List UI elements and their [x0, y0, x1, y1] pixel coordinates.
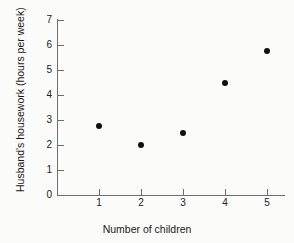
y-tick-mark [58, 195, 64, 196]
x-tick-label-3: 3 [175, 198, 191, 208]
y-tick-mark [58, 145, 64, 146]
data-point [138, 142, 144, 148]
y-tick-label-0: 0 [38, 190, 52, 200]
x-tick-label-5: 5 [259, 198, 275, 208]
data-point [180, 130, 186, 136]
x-axis-title: Number of children [0, 223, 294, 235]
data-point [96, 123, 102, 129]
data-point [222, 80, 228, 86]
x-tick-mark [183, 189, 184, 195]
y-tick-mark [58, 45, 64, 46]
x-tick-mark [99, 189, 100, 195]
scatter-plot-figure: 0 1 2 3 4 5 6 7 1 2 3 4 5 Number of chil… [0, 0, 294, 243]
x-tick-label-1: 1 [91, 198, 107, 208]
x-tick-label-2: 2 [133, 198, 149, 208]
x-axis-line [57, 195, 285, 196]
x-tick-mark [267, 189, 268, 195]
y-tick-mark [58, 70, 64, 71]
y-tick-label-5: 5 [38, 65, 52, 75]
data-point [264, 48, 270, 54]
y-tick-label-1: 1 [38, 165, 52, 175]
x-tick-mark [141, 189, 142, 195]
y-tick-mark [58, 95, 64, 96]
x-tick-mark [225, 189, 226, 195]
y-tick-label-3: 3 [38, 115, 52, 125]
x-tick-label-4: 4 [217, 198, 233, 208]
y-tick-mark [58, 120, 64, 121]
y-tick-mark [58, 170, 64, 171]
y-tick-label-4: 4 [38, 90, 52, 100]
y-tick-label-7: 7 [38, 15, 52, 25]
y-axis-title: Husband's housework (hours per week) [14, 7, 26, 192]
y-tick-label-2: 2 [38, 140, 52, 150]
y-tick-mark [58, 20, 64, 21]
y-tick-label-6: 6 [38, 40, 52, 50]
